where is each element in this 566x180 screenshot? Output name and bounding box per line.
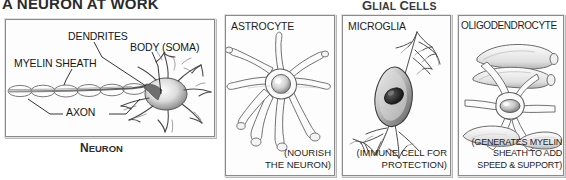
neuron-callout-myelin-sheath: MYELIN SHEATH <box>14 57 97 69</box>
neuron-callout-axon: AXON <box>66 106 95 118</box>
neuron-panel-caption: NEURON <box>80 141 123 155</box>
neuron-callout-body-soma: BODY (SOMA) <box>130 41 199 53</box>
astrocyte-caption: (NOURISH THE NEURON) <box>265 147 331 170</box>
glial-title-lial: LIAL <box>372 0 399 12</box>
glial-title-g: G <box>362 0 372 13</box>
neuron-caption-rest: EURON <box>89 143 123 154</box>
neuron-diagram-panel: DENDRITES BODY (SOMA) MYELIN SHEATH AXON <box>5 19 215 137</box>
microglia-caption: (IMMUNE CELL FOR PROTECTION) <box>357 147 447 170</box>
oligodendrocyte-caption-line-1: (GENERATES MYELIN <box>472 137 562 149</box>
microglia-label: MICROGLIA <box>348 20 406 32</box>
oligodendrocyte-caption-line-2: SHEATH TO ADD <box>472 148 562 160</box>
astrocyte-caption-line-1: (NOURISH <box>265 147 331 159</box>
astrocyte-caption-line-2: THE NEURON) <box>265 159 331 171</box>
oligodendrocyte-label: OLIGODENDROCYTE <box>461 20 557 31</box>
oligodendrocyte-panel: OLIGODENDROCYTE (GENERATES MYELIN SHEATH… <box>458 15 564 176</box>
neuron-caption-n: N <box>80 141 89 155</box>
oligodendrocyte-caption: (GENERATES MYELIN SHEATH TO ADD SPEED & … <box>472 137 562 172</box>
glial-cells-section-title: GLIAL CELLS <box>362 0 437 13</box>
astrocyte-panel: ASTROCYTE (NOURISH THE NEURON) <box>225 15 335 176</box>
oligodendrocyte-caption-line-3: SPEED & SUPPORT) <box>472 160 562 172</box>
glial-title-c: C <box>399 0 409 13</box>
neuron-callout-dendrites: DENDRITES <box>68 30 128 42</box>
microglia-panel: MICROGLIA (IMMUNE CELL FOR PROTECTION) <box>342 15 451 176</box>
glial-title-ells: ELLS <box>409 0 437 12</box>
microglia-caption-line-2: PROTECTION) <box>357 159 447 171</box>
astrocyte-label: ASTROCYTE <box>231 20 294 32</box>
neuron-section-title: A NEURON AT WORK <box>2 0 159 12</box>
microglia-caption-line-1: (IMMUNE CELL FOR <box>357 147 447 159</box>
